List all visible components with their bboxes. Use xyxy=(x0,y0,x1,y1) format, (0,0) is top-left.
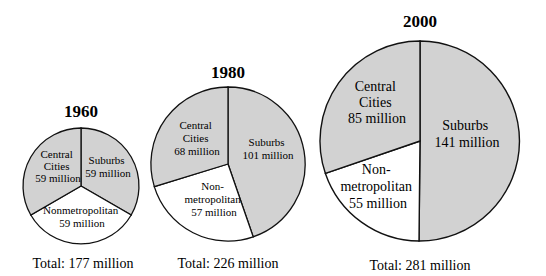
pie-1980: 1980 Central Cities 68 million Suburbs 1… xyxy=(151,63,305,271)
label-suburbs-1980: Suburbs 101 million xyxy=(242,136,294,161)
pie-charts: 1960 Central Cities 59 million Suburbs 5… xyxy=(0,0,546,276)
pie-1960: 1960 Central Cities 59 million Suburbs 5… xyxy=(23,102,139,271)
total-1960: Total: 177 million xyxy=(33,256,134,271)
label-suburbs-1960: Suburbs 59 million xyxy=(85,154,131,179)
total-1980: Total: 226 million xyxy=(178,256,279,271)
pie-title-1980: 1980 xyxy=(211,63,245,82)
total-2000: Total: 281 million xyxy=(370,258,471,273)
pie-title-1960: 1960 xyxy=(64,102,98,121)
pie-title-2000: 2000 xyxy=(403,12,437,31)
pie-2000: 2000 Central Cities 85 million Suburbs 1… xyxy=(320,12,519,273)
